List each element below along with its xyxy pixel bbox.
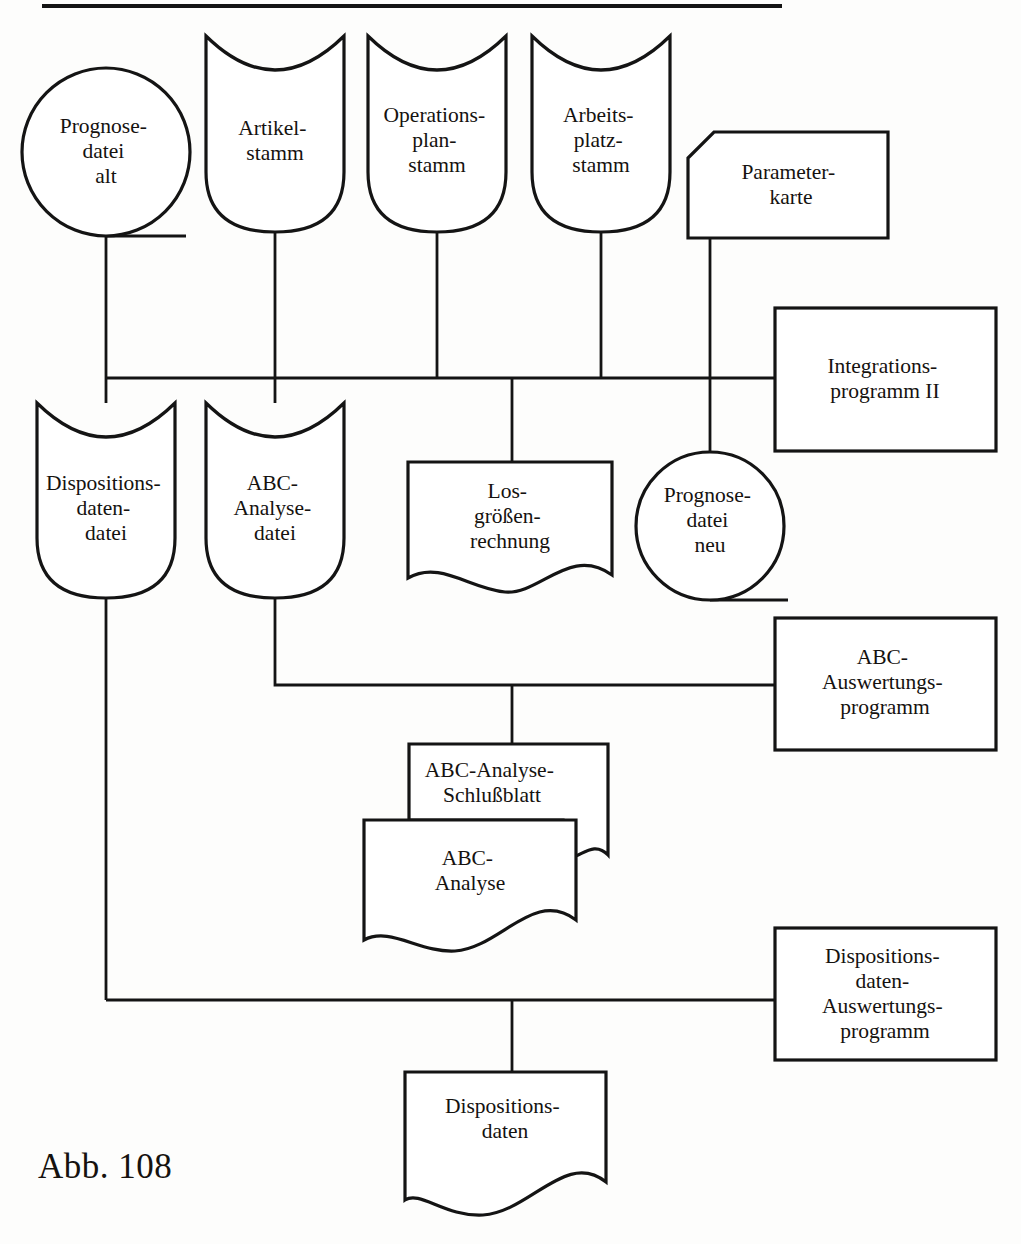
node-artikelstamm[interactable]: Artikel- stamm (206, 36, 344, 232)
figure-page: Prognose- datei alt Artikel- stamm Opera… (0, 0, 1021, 1244)
node-abc-analyse[interactable]: ABC- Analyse (364, 820, 576, 951)
node-integrationsprogramm-ii[interactable]: Integrations- programm II (775, 308, 996, 451)
node-dispositionsdaten-auswertungsprogramm[interactable]: Dispositions- daten- Auswertungs- progra… (775, 928, 996, 1060)
flowchart-diagram: Prognose- datei alt Artikel- stamm Opera… (0, 0, 1021, 1244)
node-arbeitsplatzstamm[interactable]: Arbeits- platz- stamm (532, 36, 670, 232)
artikelstamm-label: Artikel- stamm (238, 116, 311, 165)
abc-analyse-schlussblatt-label: ABC-Analyse- Schlußblatt (425, 758, 559, 807)
node-abc-auswertungsprogramm[interactable]: ABC- Auswertungs- programm (775, 618, 996, 750)
node-prognosedatei-neu[interactable]: Prognose- datei neu (636, 452, 784, 600)
node-dispositionsdaten[interactable]: Dispositions- daten (405, 1072, 606, 1215)
node-losgroessenrechnung[interactable]: Los- größen- rechnung (408, 462, 612, 592)
node-parameterkarte[interactable]: Parameter- karte (688, 132, 888, 238)
arbeitsplatzstamm-label: Arbeits- platz- stamm (563, 103, 639, 177)
dispositionsdaten-auswertungsprogramm-label: Dispositions- daten- Auswertungs- progra… (822, 944, 948, 1043)
integrationsprogramm-ii-label: Integrations- programm II (827, 354, 942, 403)
connector-abc-analysedatei-to-auswertung (275, 598, 775, 685)
figure-caption: Abb. 108 (38, 1147, 172, 1186)
abc-analyse-label: ABC- Analyse (435, 846, 505, 895)
node-dispositionsdatendatei[interactable]: Dispositions- daten- datei (37, 403, 175, 598)
node-abc-analysedatei[interactable]: ABC- Analyse- datei (206, 403, 344, 598)
node-operationsplanstamm[interactable]: Operations- plan- stamm (368, 36, 506, 232)
node-prognosedatei-alt[interactable]: Prognose- datei alt (22, 68, 190, 236)
